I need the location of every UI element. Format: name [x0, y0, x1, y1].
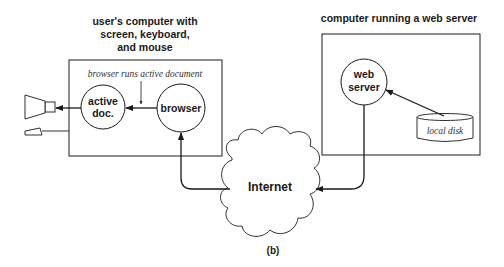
active-doc-node: active doc. — [81, 85, 125, 129]
web-server-node: web server — [341, 59, 387, 105]
diagram: user's computer with screen, keyboard, a… — [0, 0, 504, 267]
svg-text:and mouse: and mouse — [117, 41, 173, 53]
svg-text:screen, keyboard,: screen, keyboard, — [100, 28, 189, 40]
svg-text:user's computer with: user's computer with — [92, 15, 197, 27]
svg-text:doc.: doc. — [92, 107, 114, 119]
figure-caption: (b) — [267, 245, 280, 256]
webserver-to-internet-arrow — [316, 105, 364, 189]
svg-text:web: web — [353, 68, 374, 80]
svg-text:local disk: local disk — [427, 126, 464, 136]
local-disk-icon: local disk — [417, 114, 473, 142]
browser-runs-label: browser runs active document — [88, 69, 203, 79]
server-title: computer running a web server — [321, 12, 477, 24]
keyboard-icon — [25, 128, 69, 135]
internet-cloud: Internet — [221, 127, 320, 237]
svg-text:server: server — [348, 81, 380, 93]
svg-text:active: active — [88, 95, 118, 107]
svg-text:browser: browser — [161, 102, 202, 114]
disk-to-webserver-arrow — [386, 90, 444, 116]
browser-node: browser — [157, 84, 205, 132]
screen-icon — [25, 95, 55, 119]
client-title: user's computer with screen, keyboard, a… — [92, 15, 197, 53]
internet-label: Internet — [248, 180, 292, 194]
